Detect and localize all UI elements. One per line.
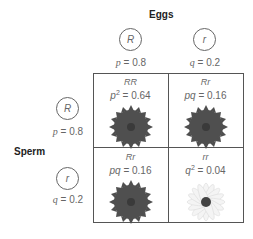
frequency-expression: q2 = 0.04 xyxy=(168,162,243,177)
white-flower-icon xyxy=(183,179,229,225)
red-flower-icon xyxy=(108,179,154,225)
allele-label: R xyxy=(64,103,71,114)
cell-rr: rr q2 = 0.04 xyxy=(168,148,243,222)
genotype-label: Rr xyxy=(93,152,168,162)
red-flower-icon xyxy=(108,104,154,150)
genotype-label: Rr xyxy=(168,77,243,87)
egg-freq-q: q = 0.2 xyxy=(182,57,228,68)
sperm-allele-R-circle: R xyxy=(56,97,79,120)
genotype-label: rr xyxy=(168,152,243,162)
sperm-freq-p: p = 0.8 xyxy=(45,126,91,137)
freq-value: = 0.8 xyxy=(121,57,146,68)
allele-label: r xyxy=(203,34,206,45)
allele-label: r xyxy=(66,173,69,184)
allele-label: R xyxy=(127,34,134,45)
frequency-expression: p2 = 0.64 xyxy=(93,87,168,102)
egg-allele-R-circle: R xyxy=(119,28,142,51)
egg-freq-p: p = 0.8 xyxy=(108,57,154,68)
sperm-freq-q: q = 0.2 xyxy=(45,194,91,205)
genotype-label: RR xyxy=(93,77,168,87)
frequency-expression: pq = 0.16 xyxy=(168,87,243,102)
sperm-allele-r-circle: r xyxy=(56,167,79,190)
eggs-label: Eggs xyxy=(149,9,173,20)
cell-RR: RR p2 = 0.64 xyxy=(93,73,168,147)
cell-Rr-top: Rr pq = 0.16 xyxy=(168,73,243,147)
frequency-expression: pq = 0.16 xyxy=(93,162,168,177)
freq-value: = 0.2 xyxy=(58,194,83,205)
red-flower-icon xyxy=(183,104,229,150)
sperm-label: Sperm xyxy=(14,146,45,157)
freq-value: = 0.8 xyxy=(58,126,83,137)
freq-value: = 0.2 xyxy=(195,57,220,68)
egg-allele-r-circle: r xyxy=(193,28,216,51)
cell-Rr-bottom: Rr pq = 0.16 xyxy=(93,148,168,222)
